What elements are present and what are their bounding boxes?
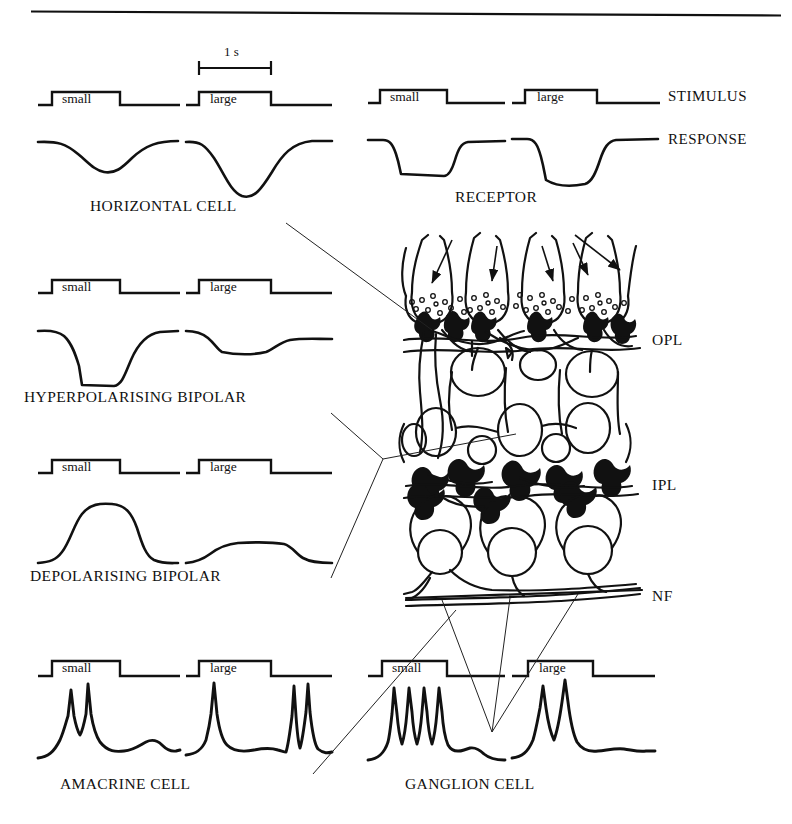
pointer-ganglion-2 [492, 598, 510, 732]
stimulus-trace-amacrine-large [186, 661, 332, 676]
response-trace-amacrine-small [38, 684, 180, 758]
stimulus-label-small-receptor: small [390, 89, 419, 105]
scale-bar-1s [199, 61, 271, 75]
stimulus-label-large-ganglion: large [539, 660, 566, 676]
response-trace-ganglion-small [368, 688, 505, 760]
stimulus-trace-receptor-large [512, 90, 660, 103]
stimulus-label-small-hyperbipolar: small [62, 279, 91, 295]
stimulus-trace-hyperbipolar-large [186, 280, 332, 293]
response-trace-depolbipolar-small [38, 504, 178, 563]
response-trace-hyperbipolar-large [186, 331, 332, 354]
response-trace-horizontal-large [186, 141, 332, 197]
stimulus-trace-depolbipolar-small [38, 460, 180, 473]
caption-hyperpolarising-bipolar: HYPERPOLARISING BIPOLAR [24, 388, 246, 406]
pointer-depolarising-bipolar [331, 459, 383, 578]
retina-response-figure: .tr{fill:none;stroke:#111;stroke-width:2… [0, 0, 792, 824]
inner-plexiform-synapses [407, 459, 631, 524]
response-trace-receptor-small [368, 140, 505, 176]
stimulus-label-small-depolbipolar: small [62, 459, 91, 475]
stimulus-label-small-amacrine: small [62, 660, 91, 676]
response-trace-hyperbipolar-small [38, 331, 178, 386]
horizontal-cell-network [404, 330, 640, 360]
stimulus-trace-horizontal-small [38, 92, 180, 105]
bipolar-amacrine-somata [400, 403, 631, 464]
response-trace-horizontal-small [38, 141, 178, 172]
response-trace-depolbipolar-large [186, 542, 332, 563]
stimulus-trace-depolbipolar-large [186, 460, 332, 473]
caption-receptor: RECEPTOR [455, 188, 537, 206]
stimulus-trace-horizontal-large [186, 92, 332, 105]
caption-ganglion-cell: GANGLION CELL [405, 775, 535, 793]
retina-section-diagram [400, 233, 643, 606]
stimulus-trace-amacrine-small [38, 661, 180, 676]
caption-amacrine-cell: AMACRINE CELL [60, 775, 191, 793]
layer-label-nf: NF [652, 587, 673, 605]
response-trace-ganglion-large [512, 680, 655, 758]
layer-label-ipl: IPL [652, 476, 677, 494]
stimulus-trace-hyperbipolar-small [38, 280, 180, 293]
response-trace-amacrine-large [186, 683, 332, 755]
stimulus-trace-ganglion-large [512, 661, 655, 676]
stimulus-label-large-hyperbipolar: large [210, 279, 237, 295]
light-arrow-icon-3 [542, 246, 553, 281]
side-label-stimulus: STIMULUS [668, 88, 747, 105]
top-horizontal-rule [31, 12, 781, 16]
pointer-hyperpolarising-bipolar [331, 413, 383, 459]
stimulus-label-large-depolbipolar: large [210, 459, 237, 475]
caption-depolarising-bipolar: DEPOLARISING BIPOLAR [30, 567, 221, 585]
pointer-horizontal-cell [286, 223, 432, 330]
stimulus-trace-receptor-small [368, 90, 505, 103]
layer-label-opl: OPL [652, 331, 683, 349]
caption-horizontal-cell: HORIZONTAL CELL [90, 197, 237, 215]
response-trace-receptor-large [512, 139, 658, 186]
nerve-fibre-layer [404, 570, 642, 606]
scale-bar-label: 1 s [224, 44, 239, 60]
stimulus-label-small-horizontal: small [62, 91, 91, 107]
side-label-response: RESPONSE [668, 131, 747, 148]
stimulus-trace-ganglion-small [368, 661, 505, 676]
stimulus-label-large-horizontal: large [210, 91, 237, 107]
pointer-ganglion-1 [442, 600, 492, 732]
stimulus-label-small-ganglion: small [392, 660, 421, 676]
figure-canvas: .tr{fill:none;stroke:#111;stroke-width:2… [0, 0, 792, 824]
photoreceptor-terminals [402, 233, 636, 322]
light-arrow-icon-2 [492, 246, 497, 281]
ganglion-cell-bodies [410, 495, 621, 576]
stimulus-label-large-amacrine: large [210, 660, 237, 676]
stimulus-label-large-receptor: large [537, 89, 564, 105]
